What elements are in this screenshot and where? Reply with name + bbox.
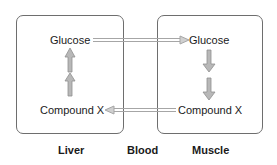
arrow-up-liver-2 xyxy=(65,48,75,72)
muscle-compound-x-node: Compound X xyxy=(178,104,242,116)
arrow-up-liver-1 xyxy=(65,73,75,96)
arrow-down-muscle-1 xyxy=(203,50,215,72)
muscle-label: Muscle xyxy=(192,144,229,156)
liver-label: Liver xyxy=(58,144,84,156)
blood-label: Blood xyxy=(127,144,158,156)
liver-glucose-node: Glucose xyxy=(50,34,90,46)
pathway-arrows xyxy=(0,0,277,165)
arrow-down-muscle-2 xyxy=(203,78,215,100)
liver-compound-x-node: Compound X xyxy=(40,104,104,116)
muscle-glucose-node: Glucose xyxy=(189,34,229,46)
arrow-muscle-compound-to-liver-compound xyxy=(105,106,176,114)
arrow-liver-glucose-to-muscle-glucose xyxy=(93,36,189,44)
